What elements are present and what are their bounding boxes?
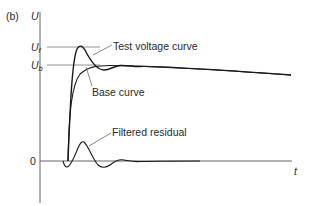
panel-label: (b) <box>6 10 19 22</box>
zero-label: 0 <box>30 155 36 167</box>
x-axis-label: t <box>294 165 298 177</box>
residual-leader <box>89 133 111 146</box>
diagram-canvas: (b) U t 0 Uf Ub Test voltage curve Base … <box>0 0 310 206</box>
filtered-residual-curve <box>63 142 200 168</box>
y-axis-label: U <box>31 10 39 22</box>
residual-annotation: Filtered residual <box>112 126 187 138</box>
ub-label: Ub <box>31 59 43 73</box>
test-voltage-annotation: Test voltage curve <box>113 40 198 52</box>
base-curve <box>68 66 291 162</box>
test-voltage-curve <box>68 46 291 161</box>
base-curve-leader <box>86 67 92 86</box>
test-voltage-leader <box>93 45 112 55</box>
base-curve-annotation: Base curve <box>92 86 145 98</box>
